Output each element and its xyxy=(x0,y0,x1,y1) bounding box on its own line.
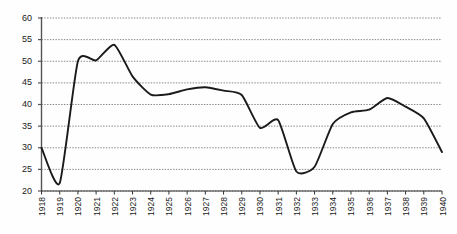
x-axis-tick-label: 1927 xyxy=(201,197,211,216)
x-axis-tick-label: 1923 xyxy=(128,197,138,216)
x-axis-tick-label: 1922 xyxy=(110,197,120,216)
x-axis-tick-label: 1926 xyxy=(183,197,193,216)
x-axis-tick-label: 1931 xyxy=(274,197,284,216)
y-axis-tick-label: 20 xyxy=(8,187,32,196)
x-axis-tick-label: 1934 xyxy=(328,197,338,216)
x-axis-tick-label: 1925 xyxy=(164,197,174,216)
y-axis-tick-label: 30 xyxy=(8,143,32,152)
line-chart: 2025303540455055601918191919201921192219… xyxy=(0,0,457,234)
x-axis-tick-label: 1918 xyxy=(37,197,47,216)
x-axis-tick-label: 1937 xyxy=(383,197,393,216)
y-axis-tick-label: 60 xyxy=(8,14,32,23)
x-axis-tick-label: 1921 xyxy=(92,197,102,216)
x-axis-tick-label: 1929 xyxy=(237,197,247,216)
y-axis-tick-label: 35 xyxy=(8,122,32,131)
x-axis-tick-label: 1936 xyxy=(365,197,375,216)
x-axis-tick-label: 1935 xyxy=(346,197,356,216)
x-axis-tick-label: 1938 xyxy=(401,197,411,216)
data-series-line xyxy=(42,45,443,185)
x-axis-tick-label: 1919 xyxy=(55,197,65,216)
y-axis-tick-label: 45 xyxy=(8,78,32,87)
x-axis-tick-label: 1928 xyxy=(219,197,229,216)
y-axis-tick-label: 55 xyxy=(8,35,32,44)
x-axis-tick-label: 1933 xyxy=(310,197,320,216)
x-axis-tick-label: 1939 xyxy=(419,197,429,216)
x-axis-tick-label: 1924 xyxy=(146,197,156,216)
y-axis-tick-label: 50 xyxy=(8,57,32,66)
y-axis-tick-label: 40 xyxy=(8,100,32,109)
x-axis-tick-label: 1932 xyxy=(292,197,302,216)
x-axis-tick-label: 1920 xyxy=(73,197,83,216)
y-axis-tick-label: 25 xyxy=(8,165,32,174)
x-axis-tick-label: 1930 xyxy=(255,197,265,216)
x-axis-tick-label: 1940 xyxy=(438,197,448,216)
